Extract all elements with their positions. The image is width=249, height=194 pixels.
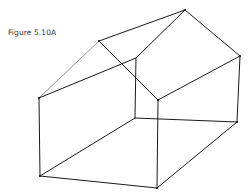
base-right-line xyxy=(157,122,237,188)
vertex-dots xyxy=(38,9,241,189)
back-gable-right-line xyxy=(185,10,240,56)
front-gable-right-line xyxy=(99,41,158,100)
right-eave-line xyxy=(158,56,240,100)
house-wireframe-drawing xyxy=(0,0,249,194)
back-left-wall-edge xyxy=(135,58,136,118)
base-left-line xyxy=(40,118,135,176)
front-right-wall-edge xyxy=(157,100,158,188)
back-gable-left-line xyxy=(136,10,185,58)
base-front-line xyxy=(40,176,157,188)
roof-ridge-line xyxy=(99,10,185,41)
back-right-wall-edge xyxy=(237,56,240,122)
left-eave-line xyxy=(39,58,136,98)
front-gable-left-line xyxy=(39,41,99,98)
base-back-line xyxy=(135,118,237,122)
front-left-wall-edge xyxy=(39,98,40,176)
